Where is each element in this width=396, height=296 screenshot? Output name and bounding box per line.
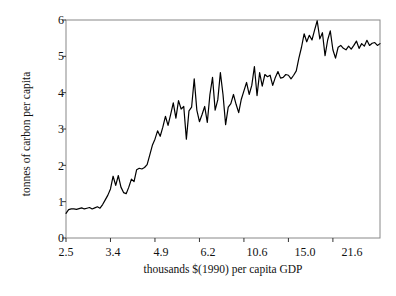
- x-axis-ticks: [66, 238, 333, 242]
- chart-figure: tonnes of carbon per capita 6 5 4 3 2 1 …: [0, 0, 396, 296]
- plot-area: [0, 0, 396, 296]
- x-axis-title: thousands $(1990) per capita GDP: [66, 263, 380, 275]
- y-axis-ticks: [62, 20, 66, 238]
- plot-frame: [66, 20, 380, 238]
